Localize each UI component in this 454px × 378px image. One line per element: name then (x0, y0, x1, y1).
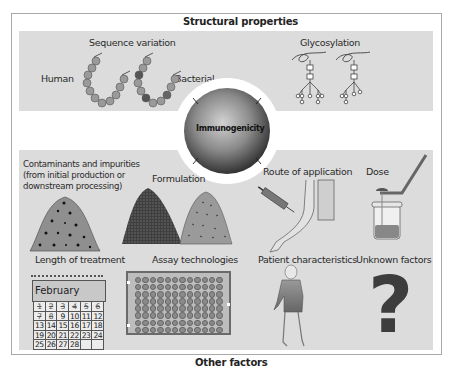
calendar-day: 23 (81, 331, 93, 341)
plate-well (216, 298, 222, 304)
plate-well (216, 305, 222, 311)
plate-well (150, 298, 156, 304)
plate-well (209, 305, 215, 311)
plate-well (187, 305, 193, 311)
formulation-title: Formulation (152, 173, 205, 184)
plate-well (187, 298, 193, 304)
plate-well (209, 277, 215, 283)
plate-marker (127, 324, 130, 327)
plate-well (216, 312, 222, 318)
february-calendar: February 1 2 3 4 5 6 7 8 9 10 11 12 13 1… (31, 275, 105, 339)
human-label: Human (41, 73, 74, 84)
plate-well (165, 291, 171, 297)
plate-well (150, 312, 156, 318)
calendar-day: 20 (46, 331, 58, 341)
calendar-day: 16 (69, 321, 81, 331)
plate-well (135, 298, 141, 304)
plate-well (209, 327, 215, 333)
sequence-variation-title: Sequence variation (89, 37, 176, 48)
plate-well (150, 284, 156, 290)
plate-well (150, 277, 156, 283)
plate-well (209, 298, 215, 304)
plate-well (209, 291, 215, 297)
calendar-day: 21 (57, 331, 69, 341)
plate-well (165, 284, 171, 290)
plate-well (142, 305, 148, 311)
calendar-day: 13 (34, 321, 46, 331)
plate-well (216, 320, 222, 326)
plate-well (157, 312, 163, 318)
plate-well (194, 320, 200, 326)
plate-marker (127, 281, 130, 284)
plate-well (142, 312, 148, 318)
plate-well (202, 298, 208, 304)
structural-properties-header: Structural properties (183, 16, 298, 27)
calendar-day: 24 (92, 331, 104, 341)
patient-characteristics-title: Patient characteristics (258, 254, 357, 265)
plate-well (194, 312, 200, 318)
plate-well (209, 284, 215, 290)
calendar-day: 26 (46, 340, 58, 350)
plate-well (142, 327, 148, 333)
plate-well (165, 327, 171, 333)
plate-well (135, 312, 141, 318)
calendar-day: 4 (69, 302, 81, 312)
calendar-day: 17 (81, 321, 93, 331)
plate-well (179, 320, 185, 326)
plate-well (172, 312, 178, 318)
calendar-day: 14 (46, 321, 58, 331)
formulation-mounds-icon (122, 184, 232, 244)
plate-well (135, 277, 141, 283)
plate-well (157, 291, 163, 297)
calendar-day: 25 (34, 340, 46, 350)
calendar-grid: 1 2 3 4 5 6 7 8 9 10 11 12 13 14 15 16 1… (33, 301, 104, 350)
calendar-month-label: February (32, 280, 106, 302)
plate-well (172, 327, 178, 333)
calendar-day: 28 (69, 340, 81, 350)
plate-well (187, 284, 193, 290)
plate-well (150, 320, 156, 326)
glycan-structure-icon-1 (290, 52, 330, 107)
plate-well (179, 305, 185, 311)
plate-well (179, 277, 185, 283)
plate-well (172, 284, 178, 290)
calendar-day: 9 (57, 312, 69, 322)
plate-well (202, 291, 208, 297)
plate-well (150, 305, 156, 311)
calendar-day: 6 (92, 302, 104, 312)
plate-well (216, 327, 222, 333)
contaminants-mound-icon (30, 193, 100, 253)
plate-well (142, 320, 148, 326)
question-mark-icon: ? (368, 260, 413, 350)
plate-well (187, 277, 193, 283)
immunogenicity-label: Immunogenicity (196, 124, 264, 133)
plate-well (165, 312, 171, 318)
plate-well (194, 327, 200, 333)
plate-well (202, 312, 208, 318)
glycosylation-title: Glycosylation (300, 37, 360, 48)
calendar-day: 10 (69, 312, 81, 322)
syringe-arm-icon (256, 180, 336, 255)
calendar-day: 5 (81, 302, 93, 312)
plate-well (172, 277, 178, 283)
plate-well (194, 277, 200, 283)
plate-well (202, 305, 208, 311)
calendar-day (92, 340, 104, 350)
calendar-day: 19 (34, 331, 46, 341)
plate-well (202, 284, 208, 290)
plate-well (194, 305, 200, 311)
plate-well (172, 320, 178, 326)
plate-well (157, 284, 163, 290)
plate-well (179, 312, 185, 318)
plate-well (172, 298, 178, 304)
plate-well (165, 305, 171, 311)
microplate-wells (135, 277, 224, 334)
plate-well (194, 284, 200, 290)
calendar-day: 18 (92, 321, 104, 331)
calendar-day: 3 (57, 302, 69, 312)
plate-well (216, 284, 222, 290)
dose-jar-spoon-icon (358, 155, 428, 240)
calendar-day: 11 (81, 312, 93, 322)
plate-well (142, 284, 148, 290)
plate-well (172, 305, 178, 311)
